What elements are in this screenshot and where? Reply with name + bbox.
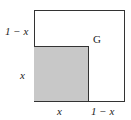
shaded-square (34, 46, 89, 101)
left-bottom-label: x (20, 70, 25, 81)
bottom-left-label: x (57, 106, 62, 117)
region-label-g: G (93, 34, 101, 45)
left-top-label: 1 − x (5, 26, 28, 37)
bottom-right-label: 1 − x (91, 106, 114, 117)
